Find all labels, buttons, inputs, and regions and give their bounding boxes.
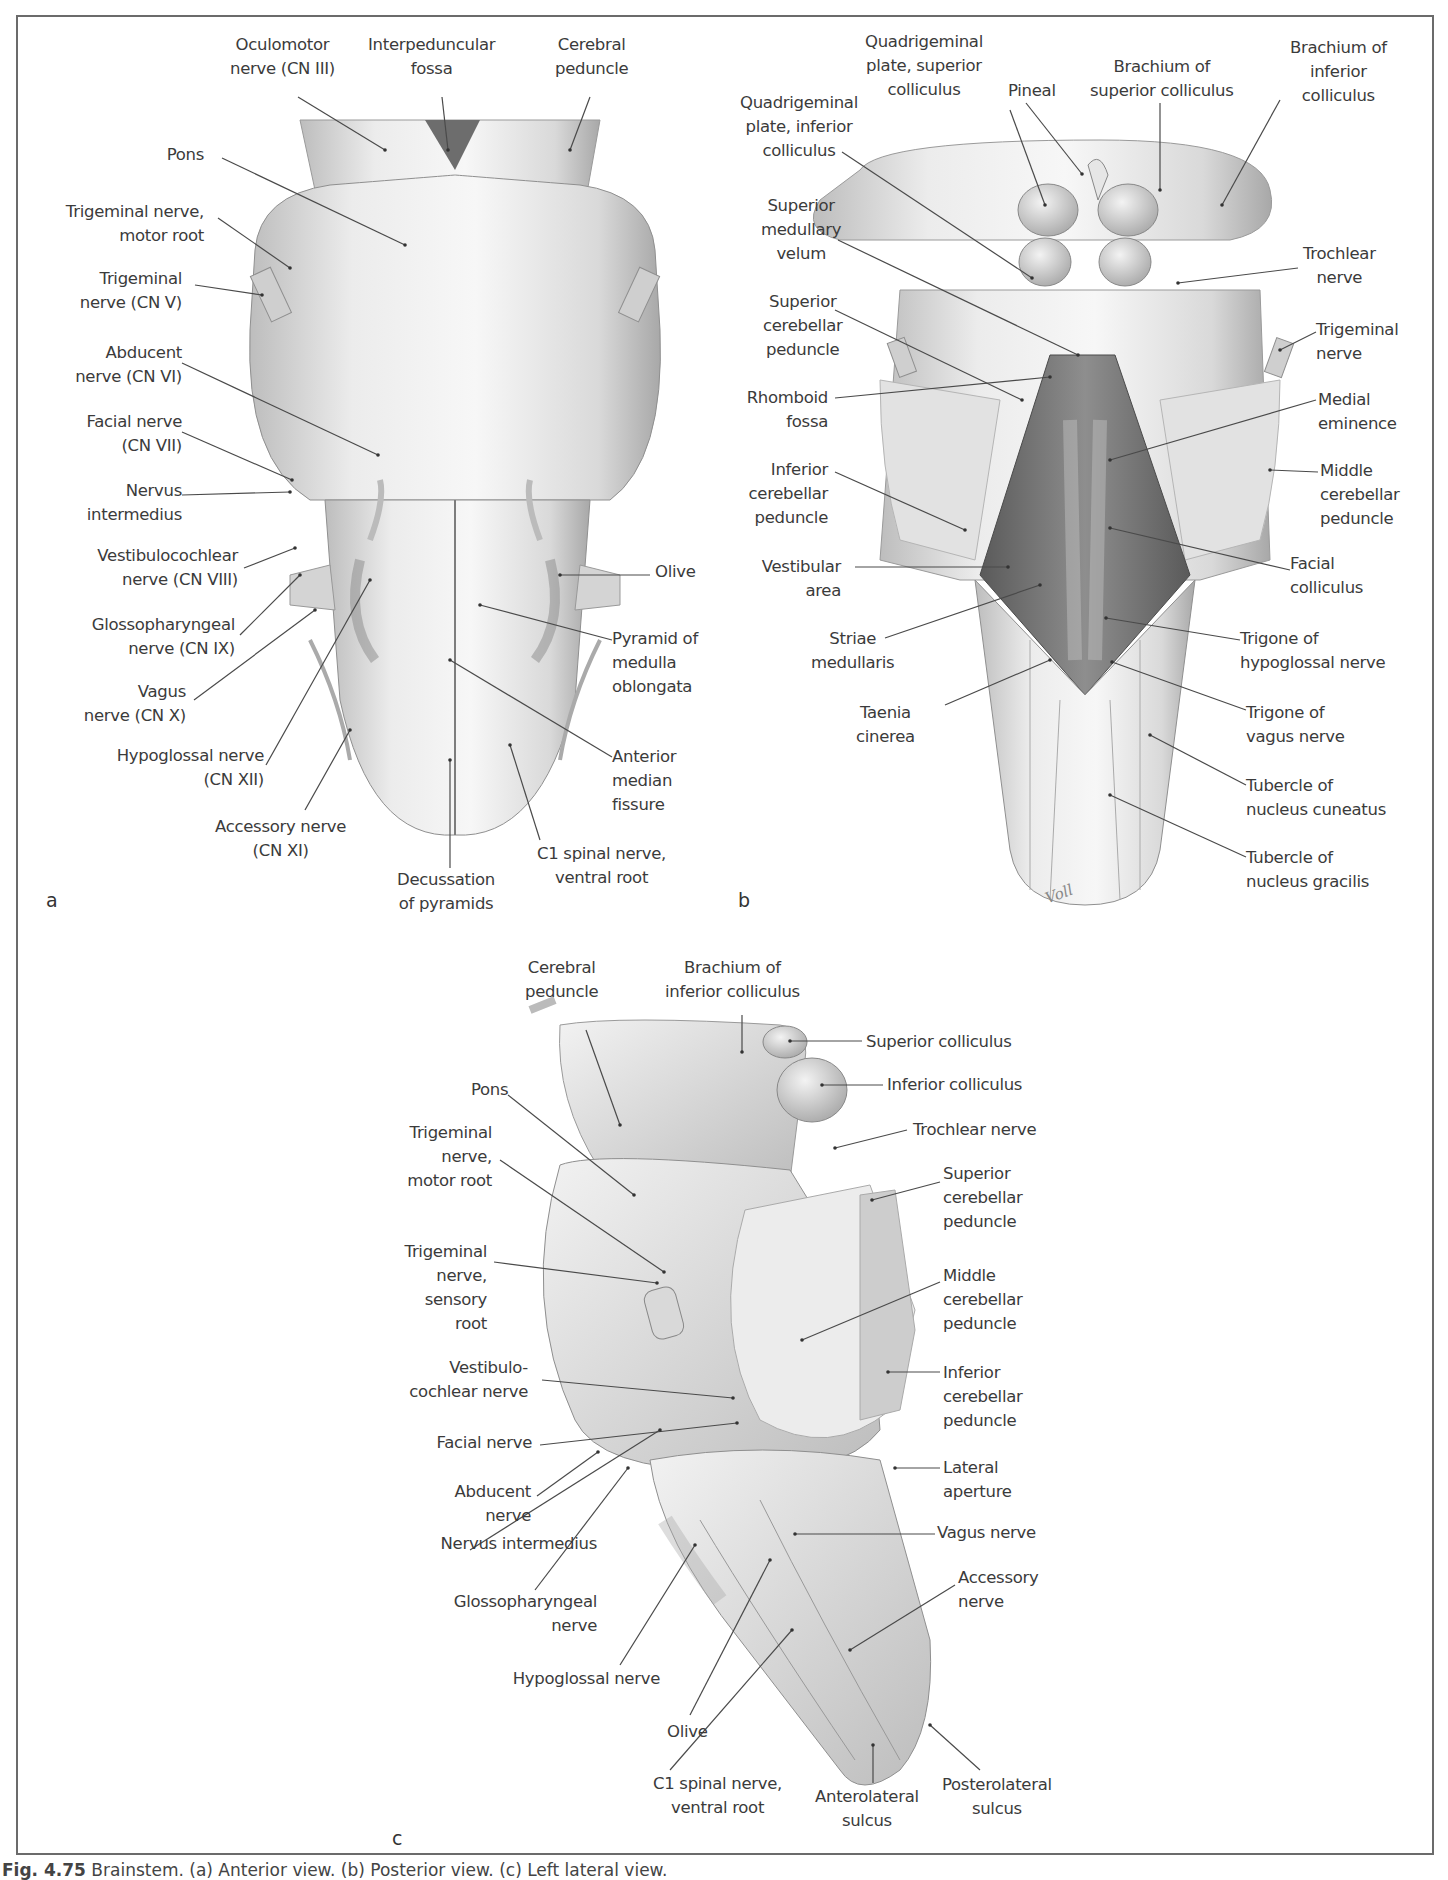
panel-letter-a: a [46, 889, 58, 911]
leader-endpoint [662, 1270, 666, 1274]
leader-line [500, 1160, 664, 1272]
label-c-anterolateral-sulcus: Anterolateral sulcus [815, 1785, 919, 1833]
leader-endpoint [1278, 348, 1282, 352]
leader-endpoint [508, 743, 512, 747]
leader-line [218, 218, 290, 268]
leader-line [244, 548, 295, 568]
leader-endpoint [313, 608, 317, 612]
leader-endpoint [376, 453, 380, 457]
caption-text: Brainstem. (a) Anterior view. (b) Poster… [91, 1860, 667, 1880]
label-a-abducent: Abducent nerve (CN VI) [75, 341, 182, 389]
label-a-vagus: Vagus nerve (CN X) [84, 680, 186, 728]
leader-line [182, 363, 378, 455]
leader-endpoint [383, 148, 387, 152]
leader-line [510, 745, 540, 840]
panel-letter-c: c [392, 1827, 402, 1849]
label-c-lateral-aperture: Lateral aperture [943, 1456, 1012, 1504]
label-b-superior-medullary-velum: Superior medullary velum [761, 194, 841, 266]
leader-line [540, 1423, 737, 1445]
leader-endpoint [568, 148, 572, 152]
leader-endpoint [1038, 583, 1042, 587]
leader-endpoint [298, 573, 302, 577]
leader-line [945, 660, 1050, 705]
label-b-taenia-cinerea: Taenia cinerea [856, 701, 915, 749]
leader-endpoint [793, 1532, 797, 1536]
panel-letter-b: b [738, 889, 750, 911]
label-a-trigeminal-motor: Trigeminal nerve, motor root [66, 200, 204, 248]
leader-endpoint [800, 1338, 804, 1342]
leader-line [1110, 795, 1246, 857]
leader-endpoint [848, 1648, 852, 1652]
label-b-rhomboid-fossa: Rhomboid fossa [747, 386, 828, 434]
leader-endpoint [1108, 526, 1112, 530]
leader-endpoint [1104, 616, 1108, 620]
label-a-vestibulocochlear: Vestibulocochlear nerve (CN VIII) [97, 544, 238, 592]
leader-endpoint [1006, 565, 1010, 569]
leader-line [182, 432, 292, 480]
leader-endpoint [632, 1193, 636, 1197]
label-a-olive: Olive [655, 560, 696, 584]
leader-line [222, 158, 405, 245]
leader-line [542, 1380, 733, 1398]
label-b-superior-cerebellar-peduncle: Superior cerebellar peduncle [763, 290, 842, 362]
leader-line [1270, 470, 1318, 472]
leader-line [835, 377, 1050, 398]
label-a-pons: Pons [167, 143, 204, 167]
leader-endpoint [1048, 658, 1052, 662]
leader-endpoint [833, 1146, 837, 1150]
label-c-pons: Pons [471, 1078, 508, 1102]
label-c-superior-cerebellar-peduncle: Superior cerebellar peduncle [943, 1162, 1022, 1234]
leader-endpoint [626, 1466, 630, 1470]
label-c-superior-colliculus: Superior colliculus [866, 1030, 1011, 1054]
leader-line [1150, 735, 1246, 785]
label-c-facial: Facial nerve [437, 1431, 532, 1455]
label-c-brachium-inferior: Brachium of inferior colliculus [665, 956, 800, 1004]
label-c-vestibulocochlear: Vestibulo- cochlear nerve [409, 1356, 528, 1404]
label-b-inferior-cerebellar-peduncle: Inferior cerebellar peduncle [749, 458, 828, 530]
leader-endpoint [288, 266, 292, 270]
leader-line [835, 472, 965, 530]
leader-line [690, 1560, 770, 1715]
leader-line [1222, 100, 1280, 205]
leader-endpoint [1080, 172, 1084, 176]
leader-line [670, 1630, 792, 1770]
label-c-c1: C1 spinal nerve, ventral root [653, 1772, 782, 1820]
label-a-oculomotor: Oculomotor nerve (CN III) [230, 33, 335, 81]
leader-endpoint [1220, 203, 1224, 207]
leader-endpoint [870, 1198, 874, 1202]
label-c-trochlear: Trochlear nerve [913, 1118, 1036, 1142]
label-a-interpeduncular: Interpeduncular fossa [368, 33, 495, 81]
leader-endpoint [1020, 398, 1024, 402]
leader-line [586, 1030, 620, 1125]
leader-endpoint [788, 1039, 792, 1043]
leader-endpoint [1043, 203, 1047, 207]
label-a-anterior-median-fissure: Anterior median fissure [612, 745, 676, 817]
leader-line [450, 660, 612, 757]
leader-endpoint [260, 293, 264, 297]
leader-endpoint [1158, 188, 1162, 192]
leader-endpoint [740, 1050, 744, 1054]
leader-endpoint [368, 578, 372, 582]
leader-line [835, 1130, 907, 1148]
label-b-pineal: Pineal [1008, 79, 1056, 103]
label-c-glossopharyngeal: Glossopharyngeal nerve [454, 1590, 597, 1638]
leader-endpoint [1176, 281, 1180, 285]
label-c-inferior-cerebellar-peduncle: Inferior cerebellar peduncle [943, 1361, 1022, 1433]
leader-line [802, 1282, 940, 1340]
leader-line [850, 1585, 955, 1650]
label-a-facial: Facial nerve (CN VII) [87, 410, 182, 458]
leader-endpoint [655, 1281, 659, 1285]
leader-line [1026, 103, 1082, 174]
leader-endpoint [348, 728, 352, 732]
leader-endpoint [790, 1628, 794, 1632]
label-c-posterolateral-sulcus: Posterolateral sulcus [942, 1773, 1052, 1821]
leader-line [1110, 528, 1290, 570]
leader-endpoint [446, 148, 450, 152]
leader-endpoint [403, 243, 407, 247]
leader-line [1178, 268, 1298, 283]
label-c-inferior-colliculus: Inferior colliculus [887, 1073, 1022, 1097]
leader-endpoint [886, 1370, 890, 1374]
label-b-middle-cerebellar-peduncle: Middle cerebellar peduncle [1320, 459, 1399, 531]
label-a-trigeminal: Trigeminal nerve (CN V) [80, 267, 182, 315]
